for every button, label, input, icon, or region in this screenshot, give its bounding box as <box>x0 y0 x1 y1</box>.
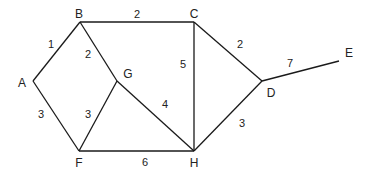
edge-weight-a-f: 3 <box>38 108 44 120</box>
edge-g-h <box>117 81 194 151</box>
edge-weight-a-b: 1 <box>48 38 54 50</box>
edge-d-e <box>262 61 339 81</box>
node-label-e: E <box>345 46 353 60</box>
node-label-f: F <box>75 156 82 170</box>
edge-weight-g-f: 3 <box>85 108 91 120</box>
edge-weight-b-g: 2 <box>85 48 91 60</box>
node-label-g: G <box>123 67 132 81</box>
edge-weight-f-h: 6 <box>142 156 148 168</box>
edge-a-b <box>33 22 80 81</box>
node-label-b: B <box>75 7 83 21</box>
edges-layer <box>33 22 339 151</box>
graph-diagram: 12252733463 ABCDEFGH <box>0 0 367 178</box>
edge-weight-b-c: 2 <box>134 8 140 20</box>
node-label-c: C <box>190 7 199 21</box>
node-label-h: H <box>190 156 199 170</box>
edge-weight-c-h: 5 <box>180 58 186 70</box>
edge-weight-d-e: 7 <box>287 57 293 69</box>
edge-h-d <box>194 81 262 151</box>
edge-weight-c-d: 2 <box>237 38 243 50</box>
nodes-layer: ABCDEFGH <box>18 7 353 170</box>
node-label-d: D <box>267 86 276 100</box>
edge-c-d <box>194 22 262 81</box>
node-label-a: A <box>18 76 26 90</box>
edge-weight-h-d: 3 <box>239 117 245 129</box>
edge-weight-g-h: 4 <box>162 98 168 110</box>
